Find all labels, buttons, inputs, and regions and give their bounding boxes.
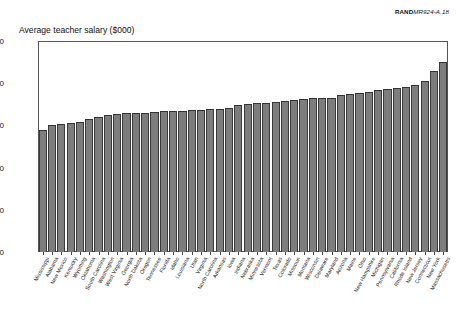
bar bbox=[94, 117, 102, 252]
x-tick-mark bbox=[108, 252, 109, 255]
x-tick-mark bbox=[415, 252, 416, 255]
bar bbox=[290, 100, 298, 252]
x-tick-mark bbox=[257, 252, 258, 255]
x-tick-mark bbox=[322, 252, 323, 255]
x-tick-mark bbox=[313, 252, 314, 255]
y-tick-label: 40 bbox=[0, 79, 4, 88]
x-tick-mark bbox=[350, 252, 351, 255]
bar bbox=[197, 110, 205, 252]
x-tick-mark bbox=[378, 252, 379, 255]
x-tick-mark bbox=[285, 252, 286, 255]
bar bbox=[188, 110, 196, 252]
y-tick-label: 10 bbox=[0, 205, 4, 214]
x-tick-mark bbox=[43, 252, 44, 255]
x-tick-mark bbox=[71, 252, 72, 255]
x-tick-mark bbox=[443, 252, 444, 255]
bar bbox=[374, 90, 382, 252]
x-tick-mark bbox=[425, 252, 426, 255]
bar bbox=[272, 102, 280, 252]
bar bbox=[402, 87, 410, 252]
bar bbox=[57, 124, 65, 252]
x-tick-mark bbox=[210, 252, 211, 255]
bar bbox=[48, 125, 56, 252]
figure-id-prefix: RAND bbox=[395, 8, 413, 15]
x-tick-mark bbox=[145, 252, 146, 255]
figure-root: RANDMR924-A.18 Average teacher salary ($… bbox=[0, 0, 457, 315]
x-tick-mark bbox=[52, 252, 53, 255]
x-tick-mark bbox=[89, 252, 90, 255]
x-tick-mark bbox=[266, 252, 267, 255]
x-tick-mark bbox=[406, 252, 407, 255]
x-tick-mark bbox=[332, 252, 333, 255]
bar bbox=[85, 119, 93, 252]
bar bbox=[337, 95, 345, 252]
bar bbox=[206, 109, 214, 252]
x-tick-mark bbox=[238, 252, 239, 255]
bar bbox=[244, 104, 252, 252]
bar bbox=[234, 105, 242, 252]
x-tick-mark bbox=[127, 252, 128, 255]
bar bbox=[39, 130, 47, 252]
x-tick-mark bbox=[294, 252, 295, 255]
bar bbox=[411, 85, 419, 252]
x-tick-mark bbox=[220, 252, 221, 255]
bar bbox=[122, 113, 130, 252]
x-tick-mark bbox=[397, 252, 398, 255]
x-tick-mark bbox=[61, 252, 62, 255]
bar bbox=[141, 113, 149, 252]
figure-id: RANDMR924-A.18 bbox=[395, 8, 449, 15]
x-tick-mark bbox=[387, 252, 388, 255]
bar bbox=[309, 98, 317, 252]
x-tick-mark bbox=[341, 252, 342, 255]
bar bbox=[393, 88, 401, 252]
x-tick-mark bbox=[80, 252, 81, 255]
x-tick-mark bbox=[154, 252, 155, 255]
bar bbox=[67, 123, 75, 252]
bar bbox=[355, 93, 363, 252]
y-tick-label: 50 bbox=[0, 37, 4, 46]
bar bbox=[299, 99, 307, 252]
y-tick-label: 30 bbox=[0, 121, 4, 130]
x-tick-mark bbox=[276, 252, 277, 255]
bar bbox=[281, 101, 289, 252]
bar bbox=[104, 115, 112, 252]
bar bbox=[169, 111, 177, 252]
bar bbox=[150, 112, 158, 252]
x-tick-mark bbox=[434, 252, 435, 255]
x-tick-mark bbox=[99, 252, 100, 255]
bar bbox=[113, 114, 121, 252]
bar bbox=[262, 103, 270, 252]
bar bbox=[160, 111, 168, 252]
bar bbox=[365, 92, 373, 252]
bar bbox=[253, 103, 261, 252]
x-tick-mark bbox=[173, 252, 174, 255]
x-tick-mark bbox=[136, 252, 137, 255]
bar bbox=[327, 98, 335, 252]
bar bbox=[318, 98, 326, 252]
bar bbox=[430, 71, 438, 252]
figure-id-number: MR924-A.18 bbox=[413, 8, 449, 15]
x-tick-mark bbox=[359, 252, 360, 255]
x-tick-mark bbox=[248, 252, 249, 255]
x-tick-mark bbox=[369, 252, 370, 255]
x-tick-mark bbox=[229, 252, 230, 255]
chart-axis-title: Average teacher salary ($000) bbox=[19, 25, 134, 35]
bar bbox=[216, 109, 224, 252]
x-tick-mark bbox=[192, 252, 193, 255]
y-tick-label: 20 bbox=[0, 163, 4, 172]
x-tick-mark bbox=[201, 252, 202, 255]
x-tick-mark bbox=[164, 252, 165, 255]
bar bbox=[439, 62, 447, 252]
bar bbox=[346, 94, 354, 252]
x-tick-mark bbox=[117, 252, 118, 255]
x-axis-labels: MississippiAlabamaNew MexicoKentuckyWyom… bbox=[38, 256, 448, 315]
bar bbox=[132, 113, 140, 252]
y-tick-label: 0 bbox=[0, 248, 4, 257]
x-tick-mark bbox=[304, 252, 305, 255]
x-tick-mark bbox=[182, 252, 183, 255]
bar bbox=[76, 122, 84, 252]
bar bbox=[178, 111, 186, 252]
bar bbox=[383, 89, 391, 252]
bars-layer bbox=[38, 41, 448, 252]
bar bbox=[421, 81, 429, 252]
